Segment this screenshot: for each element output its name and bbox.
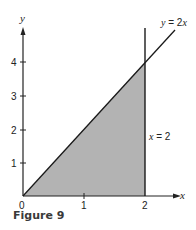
y-axis-label: y: [19, 12, 25, 24]
x-tick-label-2: 2: [142, 200, 148, 211]
figure-caption: Figure 9: [13, 209, 64, 222]
annotation-eq2: = 2: [153, 131, 170, 142]
y-tick-label-4: 4: [11, 57, 17, 68]
y-axis-arrow-icon: [21, 27, 26, 35]
annotation-eq: = 2: [165, 17, 182, 28]
chart-canvas: y x 1 2 3 4 0 1 2 y = 2x x = 2: [0, 0, 196, 230]
y-tick-label-3: 3: [11, 91, 17, 102]
annotation-x-equals-2: x = 2: [148, 131, 171, 142]
annotation-y-equals-2x: y = 2x: [160, 17, 187, 28]
y-tick-label-2: 2: [11, 125, 17, 136]
annotation-var-x: x: [181, 17, 187, 28]
x-tick-label-1: 1: [81, 200, 87, 211]
x-axis-label: x: [179, 189, 185, 201]
y-tick-label-1: 1: [11, 158, 17, 169]
